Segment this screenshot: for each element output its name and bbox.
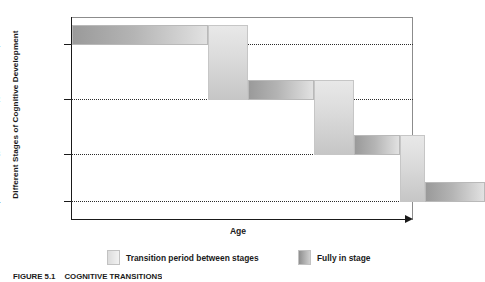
plateau-stage-4 <box>425 182 485 202</box>
riser-stage-1-to-2 <box>208 25 248 100</box>
plot-area <box>71 17 413 220</box>
legend-item-transition: Transition period between stages <box>107 250 259 265</box>
legend-item-fully-in-stage: Fully in stage <box>298 250 371 265</box>
plateau-stage-2 <box>248 80 314 100</box>
x-axis-arrow-icon <box>405 215 413 223</box>
y-tick-stage-4 <box>64 201 71 202</box>
riser-stage-2-to-3 <box>314 80 354 155</box>
legend-swatch-fully-in-stage-icon <box>298 250 311 265</box>
y-tick-stage-2 <box>64 99 71 100</box>
chart-legend: Transition period between stages Fully i… <box>0 250 426 268</box>
x-axis-title: Age <box>71 226 405 236</box>
figure-caption: FIGURE 5.1COGNITIVE TRANSITIONS <box>13 272 162 281</box>
y-tick-stage-1 <box>64 44 71 45</box>
figure-caption-title: COGNITIVE TRANSITIONS <box>64 272 162 281</box>
y-tick-stage-3 <box>64 154 71 155</box>
x-axis-line <box>71 219 405 220</box>
y-axis-title: Different Stages of Cognitive Developmen… <box>11 7 20 222</box>
figure-caption-number: FIGURE 5.1 <box>13 272 55 281</box>
riser-stage-3-to-4 <box>400 135 425 202</box>
y-axis-line <box>71 17 72 220</box>
legend-swatch-transition-icon <box>107 250 120 265</box>
plateau-stage-1 <box>72 25 208 45</box>
legend-label-transition: Transition period between stages <box>126 253 259 263</box>
plateau-stage-3 <box>354 135 400 155</box>
gridline-stage-4 <box>71 201 413 202</box>
legend-label-fully-in-stage: Fully in stage <box>317 253 371 263</box>
